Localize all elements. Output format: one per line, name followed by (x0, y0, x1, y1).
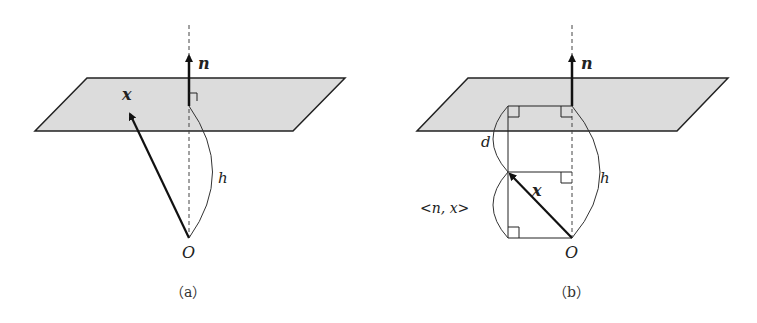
right-angle-mark (508, 227, 519, 238)
label-n: n (581, 54, 593, 73)
panel-a: n x h O （a） (35, 25, 345, 300)
label-h: h (218, 169, 228, 187)
panel-b: n x d <n, x> h O （b） (417, 25, 728, 300)
label-n: n (198, 54, 210, 73)
label-origin: O (565, 243, 578, 262)
label-x: x (531, 181, 542, 200)
label-x: x (121, 85, 132, 104)
caption-a: （a） (170, 284, 206, 300)
label-d: d (481, 133, 491, 151)
label-h: h (600, 169, 610, 187)
label-inner-product: <n, x> (420, 200, 469, 216)
inner-product-arc (493, 172, 508, 238)
figure: n x h O （a） n x d <n, x> h O （b） (0, 0, 757, 323)
caption-b: （b） (553, 284, 590, 300)
label-origin: O (182, 243, 195, 262)
right-angle-mark (561, 172, 572, 183)
vector-x-arrow (130, 114, 189, 238)
